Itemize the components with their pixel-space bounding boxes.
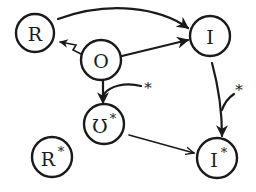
edge-o-to-r [60,42,81,54]
modifier-arrow-o-ostar [104,84,141,94]
modifier-arrow-i-istar [222,94,234,110]
edge-o-to-i [122,40,188,56]
node-rstar-label: R [41,148,56,170]
node-i: I [190,16,230,56]
edge-i-to-istar [212,63,222,136]
node-rstar-superscript: * [58,144,65,159]
node-i-label: I [206,26,214,48]
node-ostar-label: Ʊ [92,115,108,137]
node-rstar: R * [32,137,72,177]
edge-r-to-i [58,8,188,28]
modifier-star-i-istar: * [235,81,243,99]
modifier-star-o-ostar: * [144,79,152,97]
edge-ostar-to-istar [129,135,194,153]
node-r: R [16,14,54,52]
node-istar-superscript: * [221,145,228,160]
node-o-label: O [93,50,109,72]
node-ostar: Ʊ * [84,104,124,144]
node-r-label: R [28,23,43,45]
node-o: O [81,40,121,80]
node-istar: I * [197,138,237,178]
node-istar-label: I [210,149,218,171]
node-ostar-superscript: * [110,111,117,126]
state-diagram: * * R O I Ʊ * R * I * [0,0,256,192]
